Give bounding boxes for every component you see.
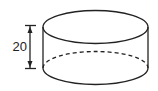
cylinder-diagram: 20 [0, 0, 158, 91]
height-label: 20 [13, 39, 27, 54]
arrow-up-icon [28, 27, 33, 34]
arrow-down-icon [28, 61, 33, 68]
cylinder-top-face [43, 11, 148, 44]
cylinder-bottom-front-arc [43, 68, 148, 85]
cylinder-bottom-hidden-arc [43, 52, 148, 69]
